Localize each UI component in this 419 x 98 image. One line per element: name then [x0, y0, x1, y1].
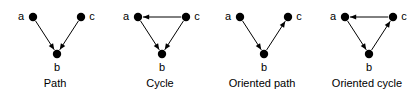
arrowhead-icon [143, 14, 149, 19]
arrowhead-icon [350, 14, 356, 19]
arrowhead-icon [154, 43, 160, 50]
node-label-c: c [89, 10, 95, 22]
edge-b-to-c [372, 21, 391, 50]
node-label-c: c [296, 10, 302, 22]
node-label-c: c [401, 10, 407, 22]
graph-figure: abcPathabcCycleabcOriented pathabcOrient… [0, 0, 419, 98]
node-label-b: b [261, 61, 267, 73]
node-c [389, 13, 397, 21]
edge-c-to-b [165, 21, 184, 50]
node-a [341, 13, 349, 21]
node-label-a: a [225, 10, 232, 22]
panel-oriented-path: abcOriented path [207, 0, 317, 98]
node-c [77, 13, 85, 21]
arrowhead-icon [280, 21, 286, 28]
node-label-b: b [366, 61, 372, 73]
node-b [365, 50, 373, 58]
edge-c-to-a [350, 14, 388, 19]
graph-oriented-path: abc [207, 0, 317, 76]
panel-oriented-cycle: abcOriented cycle [312, 0, 419, 98]
node-label-a: a [18, 10, 25, 22]
node-c [284, 13, 292, 21]
node-label-b: b [159, 61, 165, 73]
node-a [236, 13, 244, 21]
edge-a-to-b [243, 21, 262, 50]
node-b [53, 50, 61, 58]
arrowhead-icon [49, 43, 55, 50]
node-a [134, 13, 142, 21]
panel-path: abcPath [0, 0, 110, 98]
arrowhead-icon [165, 43, 171, 50]
panel-caption-path: Path [0, 77, 110, 89]
node-b [158, 50, 166, 58]
graph-path: abc [0, 0, 110, 76]
edge-b-to-c [267, 21, 286, 50]
arrowhead-icon [60, 43, 66, 50]
graph-cycle: abc [105, 0, 215, 76]
edge-c-to-b [60, 21, 79, 50]
graph-oriented-cycle: abc [312, 0, 419, 76]
node-label-c: c [194, 10, 200, 22]
node-c [182, 13, 190, 21]
arrowhead-icon [256, 43, 262, 50]
arrowhead-icon [361, 43, 367, 50]
edge-c-to-a [143, 14, 181, 19]
node-label-a: a [330, 10, 337, 22]
node-label-a: a [123, 10, 130, 22]
node-label-b: b [54, 61, 60, 73]
panel-caption-cycle: Cycle [105, 77, 215, 89]
node-b [260, 50, 268, 58]
arrowhead-icon [385, 21, 391, 28]
node-a [29, 13, 37, 21]
panel-caption-oriented-cycle: Oriented cycle [312, 77, 419, 89]
edge-a-to-b [36, 21, 55, 50]
panel-caption-oriented-path: Oriented path [207, 77, 317, 89]
edge-a-to-b [141, 21, 160, 50]
edge-a-to-b [348, 21, 367, 50]
panel-cycle: abcCycle [105, 0, 215, 98]
